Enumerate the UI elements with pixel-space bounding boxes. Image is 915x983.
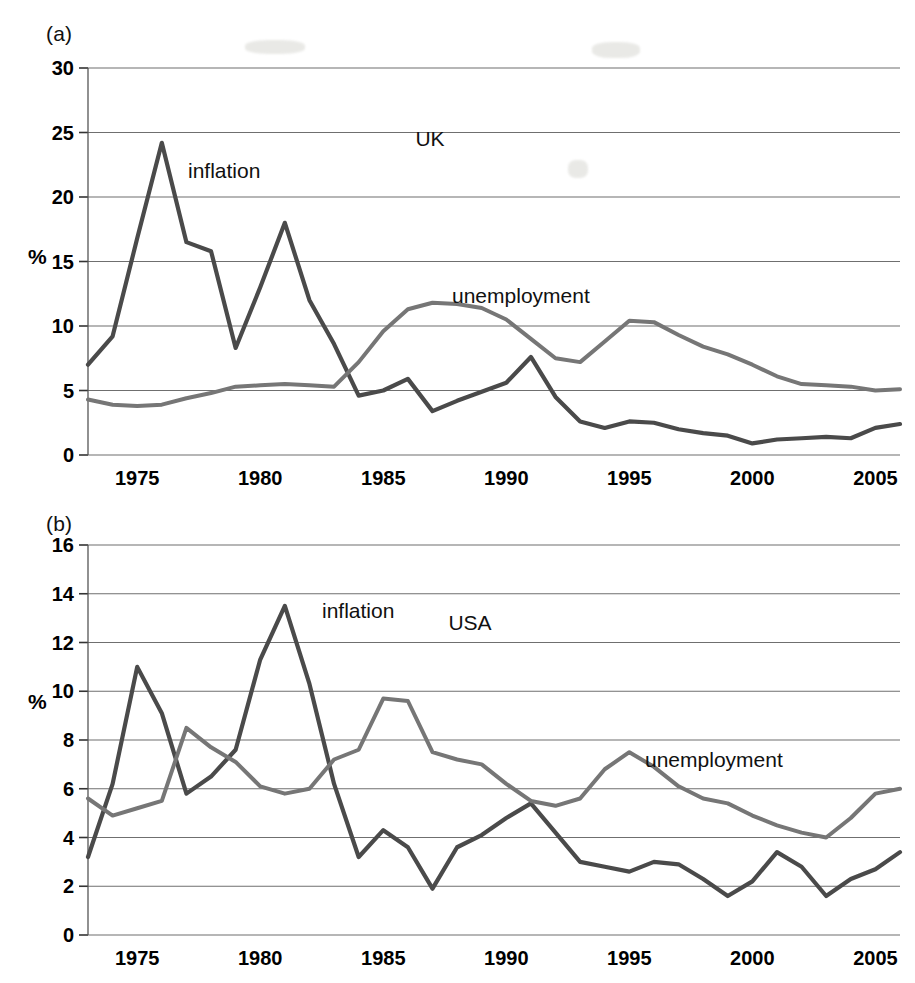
x-tick-label: 1990 [484, 467, 529, 489]
y-tick-label: 6 [63, 778, 74, 800]
panel-b-inflation-label: inflation [322, 599, 394, 622]
panel-b-region-label: USA [448, 611, 491, 634]
x-tick-label: 1995 [607, 467, 652, 489]
panel-a-unemployment-label: unemployment [452, 284, 590, 307]
y-tick-label: 0 [63, 444, 74, 466]
x-tick-label: 1990 [484, 947, 529, 969]
y-tick-label: 4 [63, 827, 75, 849]
y-tick-label: 30 [52, 57, 74, 79]
y-tick-label: 0 [63, 924, 74, 946]
x-tick-label: 1985 [361, 947, 406, 969]
x-tick-label: 1980 [238, 467, 283, 489]
y-tick-label: 25 [52, 122, 74, 144]
y-tick-label: 5 [63, 380, 74, 402]
y-tick-label: 20 [52, 186, 74, 208]
x-tick-label: 1980 [238, 947, 283, 969]
x-tick-label: 2000 [730, 467, 775, 489]
chart-panel-usa: (b) % 0246810121416197519801985199019952… [0, 500, 915, 983]
y-tick-label: 14 [52, 583, 75, 605]
chart-panel-uk: (a) % 0510152025301975198019851990199520… [0, 0, 915, 500]
x-tick-label: 2005 [853, 947, 898, 969]
x-tick-label: 2000 [730, 947, 775, 969]
y-tick-label: 16 [52, 534, 74, 556]
y-tick-label: 2 [63, 875, 74, 897]
y-tick-label: 10 [52, 315, 74, 337]
panel-b-unemployment-label: unemployment [645, 748, 783, 771]
x-tick-label: 1975 [115, 947, 160, 969]
panel-a-plot: 0510152025301975198019851990199520002005… [0, 0, 915, 500]
x-tick-label: 1975 [115, 467, 160, 489]
y-tick-label: 8 [63, 729, 74, 751]
x-tick-label: 1995 [607, 947, 652, 969]
panel-a-region-label: UK [415, 127, 444, 150]
y-tick-label: 10 [52, 680, 74, 702]
panel-a-inflation-label: inflation [188, 159, 260, 182]
x-tick-label: 2005 [853, 467, 898, 489]
x-tick-label: 1985 [361, 467, 406, 489]
figure-page: (a) % 0510152025301975198019851990199520… [0, 0, 915, 983]
panel-b-plot: 0246810121416197519801985199019952000200… [0, 500, 915, 983]
y-tick-label: 15 [52, 251, 74, 273]
y-tick-label: 12 [52, 632, 74, 654]
